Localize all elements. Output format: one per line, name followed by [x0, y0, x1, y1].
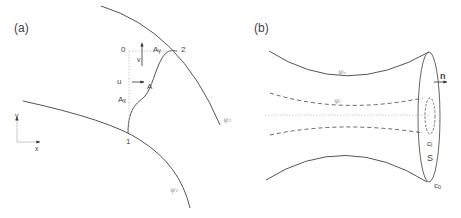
- streamline-psi2: [101, 6, 220, 125]
- path-a: [128, 51, 177, 133]
- inner-contour: [425, 98, 435, 134]
- outer-contour-label: cₒ: [434, 181, 441, 190]
- panel-b-label: (b): [254, 21, 269, 35]
- point-1-label: 1: [126, 137, 131, 146]
- outer-streamline-lower: [266, 155, 427, 182]
- streamline-psi1: [23, 101, 190, 208]
- psi-i-label: ψᵢ: [334, 97, 341, 105]
- surface-label: S: [427, 153, 433, 163]
- ax-label: Aₓ: [118, 95, 126, 104]
- inner-streamline-lower: [270, 127, 423, 135]
- normal-label: n: [440, 71, 446, 81]
- psi-o-label: ψₒ: [338, 68, 346, 76]
- psi2-label: ψ₂: [223, 116, 231, 124]
- outer-streamline-upper: [269, 51, 429, 76]
- figure: (a) 0 Aᵧ 2 v u A Aₓ 1 ψ₂ ψ₁ y x (b: [0, 0, 461, 218]
- ay-label: Aᵧ: [153, 45, 161, 54]
- panel-a-label: (a): [14, 21, 29, 35]
- origin-label: 0: [121, 45, 126, 54]
- inner-streamline-upper: [270, 93, 423, 105]
- x-axis-label: x: [35, 145, 39, 152]
- v-label: v: [137, 56, 141, 63]
- psi1-label: ψ₁: [170, 186, 178, 194]
- point-2-label: 2: [181, 45, 186, 54]
- panel-a: (a) 0 Aᵧ 2 v u A Aₓ 1 ψ₂ ψ₁ y x: [14, 6, 231, 208]
- a-label: A: [147, 82, 153, 91]
- u-label: u: [117, 77, 121, 86]
- inner-contour-label: cᵢ: [427, 139, 432, 148]
- panel-b: (b) n ψₒ ψᵢ cᵢ S cₒ: [254, 21, 447, 190]
- coordinate-axes: y x: [15, 112, 40, 152]
- y-axis-label: y: [15, 112, 19, 120]
